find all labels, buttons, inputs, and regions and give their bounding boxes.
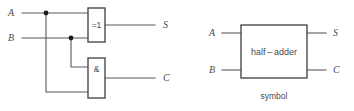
junction-dot-b [69,36,74,41]
junction-dot-a [44,11,49,16]
circuit-output-label-c: C [163,72,170,83]
circuit-input-label-b: B [8,32,14,43]
symbol-input-label-a: A [208,27,216,38]
symbol-diagram: A B S C half – adder symbol [208,25,340,101]
symbol-output-label-s: S [333,27,338,38]
symbol-caption: symbol [261,91,288,101]
wire-a-branch-to-and [46,13,88,92]
half-adder-block-label: half – adder [251,47,297,57]
half-adder-figure: A B S C =1 & A B S C half – adder symbol [0,0,354,111]
circuit-diagram: A B S C =1 & [7,7,170,98]
symbol-input-label-b: B [209,64,215,75]
wire-b-branch-to-and [71,38,88,67]
circuit-output-label-s: S [163,19,168,30]
figure-canvas: A B S C =1 & A B S C half – adder symbol [0,0,354,111]
symbol-output-label-c: C [333,64,340,75]
xor-gate-label: =1 [92,20,102,30]
circuit-input-label-a: A [7,7,15,18]
and-gate-label: & [94,64,100,74]
